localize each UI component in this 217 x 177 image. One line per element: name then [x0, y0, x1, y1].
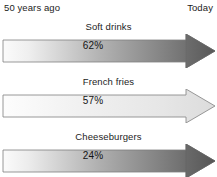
arrow-graphic-french-fries — [0, 89, 217, 123]
timeline-end-label: Today — [187, 2, 213, 14]
category-label-french-fries: French fries — [0, 75, 217, 88]
category-label-soft-drinks: Soft drinks — [0, 20, 217, 33]
arrow-graphic-cheeseburgers — [0, 144, 217, 177]
timeline-start-label: 50 years ago — [4, 2, 60, 14]
arrow-graphic-soft-drinks — [0, 34, 217, 68]
arrow-row: French fries 57% — [0, 75, 217, 123]
category-label-cheeseburgers: Cheeseburgers — [0, 130, 217, 143]
arrow-row: Cheeseburgers — [0, 130, 217, 177]
infographic-root: 50 years ago Today Soft drinks — [0, 0, 217, 177]
arrow-row: Soft drinks — [0, 20, 217, 68]
timeline-header: 50 years ago Today — [0, 0, 217, 18]
